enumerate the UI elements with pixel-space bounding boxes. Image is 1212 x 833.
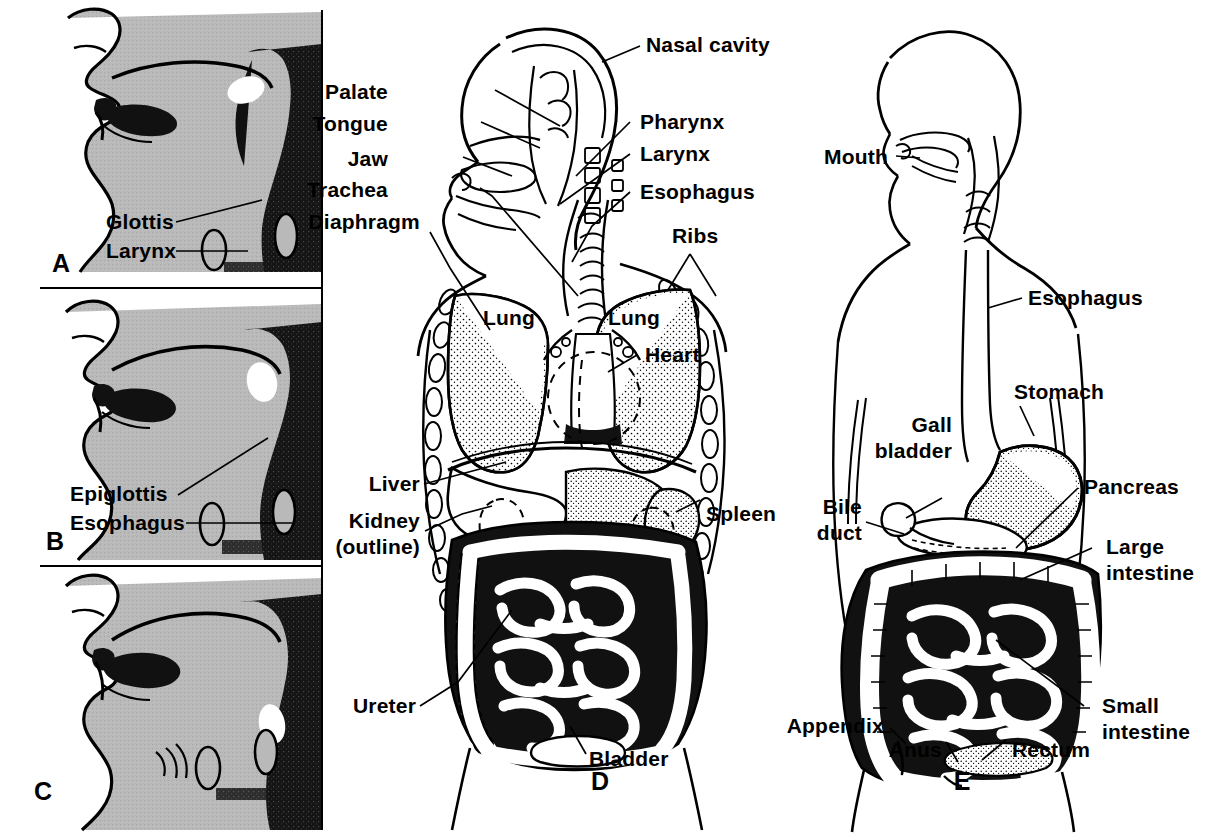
label-lung-right: Lung bbox=[608, 306, 660, 329]
panel-letter-c: C bbox=[34, 777, 52, 805]
label-liver: Liver bbox=[369, 472, 420, 495]
label-small-2: intestine bbox=[1102, 720, 1190, 743]
panel-letter-b: B bbox=[46, 527, 64, 555]
label-pharynx: Pharynx bbox=[640, 110, 724, 133]
label-epiglottis: Epiglottis bbox=[70, 482, 168, 505]
label-jaw: Jaw bbox=[348, 147, 389, 170]
label-stomach: Stomach bbox=[1014, 380, 1104, 403]
label-esophagus-e: Esophagus bbox=[1028, 286, 1143, 309]
label-pancreas: Pancreas bbox=[1084, 475, 1179, 498]
label-rectum: Rectum bbox=[1012, 738, 1090, 761]
label-larynx: Larynx bbox=[106, 239, 176, 262]
label-trachea: Trachea bbox=[307, 178, 388, 201]
label-ribs: Ribs bbox=[672, 224, 718, 247]
label-ureter: Ureter bbox=[353, 694, 416, 717]
label-large-2: intestine bbox=[1106, 561, 1194, 584]
anatomy-figure: Glottis Larynx A Epiglottis Esophagus B bbox=[0, 0, 1212, 833]
label-bile-1: Bile bbox=[823, 495, 862, 518]
label-palate: Palate bbox=[325, 80, 388, 103]
label-lung-left: Lung bbox=[483, 306, 535, 329]
label-anus: Anus bbox=[889, 738, 942, 761]
label-tongue: Tongue bbox=[313, 112, 388, 135]
label-kidney-outline: (outline) bbox=[335, 535, 420, 558]
label-mouth: Mouth bbox=[824, 145, 888, 168]
label-glottis: Glottis bbox=[106, 210, 174, 233]
panel-letter-d: D bbox=[591, 767, 609, 795]
label-larynx-d: Larynx bbox=[640, 142, 710, 165]
label-bile-2: duct bbox=[817, 521, 862, 544]
label-gall-1: Gall bbox=[912, 413, 952, 436]
panel-letter-a: A bbox=[52, 249, 70, 277]
label-esophagus: Esophagus bbox=[70, 511, 185, 534]
panel-letter-e: E bbox=[954, 767, 971, 795]
label-spleen: Spleen bbox=[706, 502, 776, 525]
label-nasal-cavity: Nasal cavity bbox=[646, 33, 770, 56]
label-small-1: Small bbox=[1102, 694, 1159, 717]
label-heart: Heart bbox=[645, 343, 700, 366]
label-large-1: Large bbox=[1106, 535, 1164, 558]
label-gall-2: bladder bbox=[875, 439, 952, 462]
label-esophagus-d: Esophagus bbox=[640, 180, 755, 203]
label-diaphragm: Diaphragm bbox=[309, 210, 421, 233]
label-appendix: Appendix bbox=[787, 714, 884, 737]
label-kidney: Kidney bbox=[349, 509, 420, 532]
